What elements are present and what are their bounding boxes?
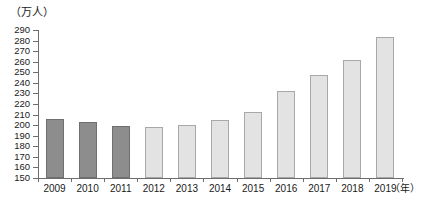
y-axis-unit-label: （万人） xyxy=(10,6,54,19)
x-tick-label: 2012 xyxy=(138,183,170,195)
y-tick-label: 260 xyxy=(0,57,30,67)
bar-2011 xyxy=(112,126,130,178)
x-tick xyxy=(237,178,238,182)
x-tick-label: 2014 xyxy=(204,183,236,195)
x-tick-label: 2016 xyxy=(270,183,302,195)
y-tick xyxy=(33,93,38,94)
x-tick xyxy=(170,178,171,182)
y-tick-label: 200 xyxy=(0,120,30,130)
bar-2014 xyxy=(211,120,229,178)
x-tick xyxy=(303,178,304,182)
y-tick xyxy=(33,72,38,73)
y-tick-label: 210 xyxy=(0,110,30,120)
x-tick-label: 2015 xyxy=(237,183,269,195)
y-tick xyxy=(33,51,38,52)
x-tick xyxy=(71,178,72,182)
y-tick xyxy=(33,83,38,84)
y-tick xyxy=(33,62,38,63)
y-tick xyxy=(33,125,38,126)
y-tick-label: 280 xyxy=(0,36,30,46)
y-tick-label: 230 xyxy=(0,88,30,98)
y-tick-label: 250 xyxy=(0,67,30,77)
bar-2018 xyxy=(343,60,361,178)
y-tick xyxy=(33,157,38,158)
y-tick-label: 180 xyxy=(0,141,30,151)
x-tick-label: 2017 xyxy=(303,183,335,195)
x-tick-label: 2009 xyxy=(39,183,71,195)
bar-2010 xyxy=(79,122,97,178)
x-tick xyxy=(104,178,105,182)
bar-2013 xyxy=(178,125,196,178)
y-tick-label: 270 xyxy=(0,46,30,56)
y-tick xyxy=(33,115,38,116)
bar-2016 xyxy=(277,91,295,178)
x-tick-label: 2013 xyxy=(171,183,203,195)
bar-2012 xyxy=(145,127,163,178)
x-axis-line xyxy=(38,178,404,179)
bar-2009 xyxy=(46,119,64,178)
x-tick xyxy=(270,178,271,182)
x-tick xyxy=(402,178,403,182)
x-tick xyxy=(336,178,337,182)
y-tick xyxy=(33,41,38,42)
y-tick-label: 290 xyxy=(0,25,30,35)
y-tick-label: 240 xyxy=(0,78,30,88)
y-tick xyxy=(33,136,38,137)
x-tick xyxy=(38,178,39,182)
y-axis-line xyxy=(38,30,39,179)
x-axis-caption: （年） xyxy=(390,183,420,195)
x-tick-label: 2010 xyxy=(72,183,104,195)
bar-2015 xyxy=(244,112,262,178)
y-tick-label: 220 xyxy=(0,99,30,109)
y-tick-label: 170 xyxy=(0,152,30,162)
x-tick-label: 2018 xyxy=(336,183,368,195)
bar-2017 xyxy=(310,75,328,178)
y-tick-label: 190 xyxy=(0,131,30,141)
x-tick xyxy=(137,178,138,182)
y-tick xyxy=(33,104,38,105)
y-tick xyxy=(33,30,38,31)
y-tick-label: 150 xyxy=(0,173,30,183)
y-tick-label: 160 xyxy=(0,162,30,172)
bar-2019 xyxy=(376,37,394,178)
x-tick xyxy=(369,178,370,182)
y-tick xyxy=(33,167,38,168)
bar-chart: （万人） 29028027026025024023022021020019018… xyxy=(0,0,421,212)
x-tick-label: 2011 xyxy=(105,183,137,195)
y-tick xyxy=(33,146,38,147)
x-tick xyxy=(203,178,204,182)
